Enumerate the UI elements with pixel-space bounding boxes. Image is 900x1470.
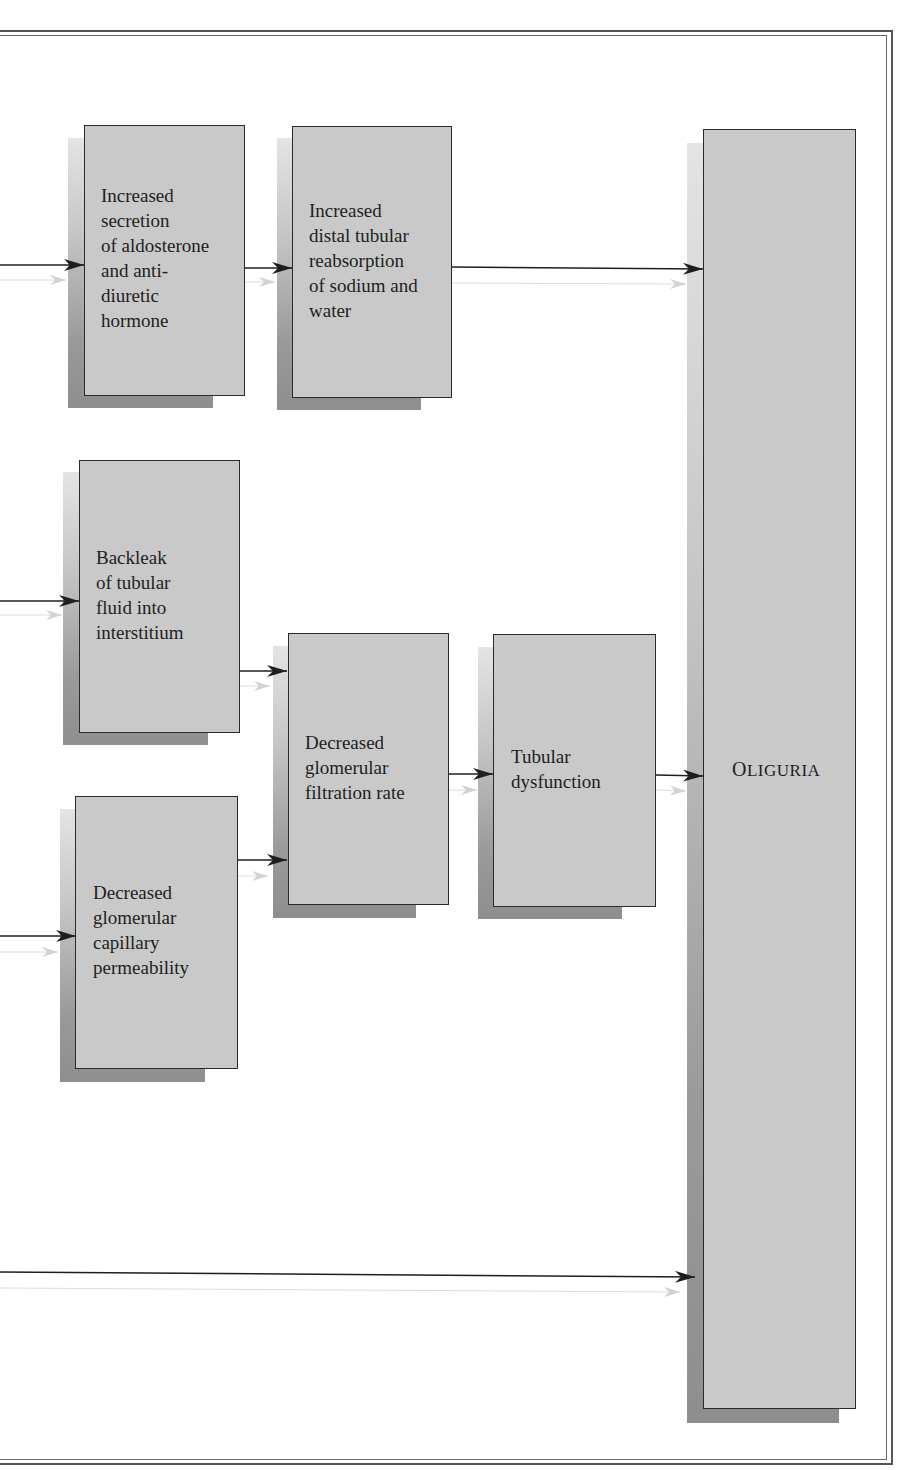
edge-permeability-to-gfr [238, 860, 287, 876]
edge-offpage-to-permeability [0, 936, 76, 952]
edge-gfr-to-tubular [449, 774, 493, 790]
edge-distal-to-oliguria [452, 267, 703, 284]
edge-backleak-to-gfr [240, 671, 287, 686]
edge-offpage-to-backleak [0, 601, 79, 615]
edge-offpage-to-aldosterone [0, 265, 84, 280]
arrows-layer [0, 0, 900, 1470]
edge-aldosterone-to-distal [245, 268, 292, 282]
edge-tubular-to-oliguria [656, 775, 703, 791]
edge-offpage-to-oliguria [0, 1272, 695, 1292]
